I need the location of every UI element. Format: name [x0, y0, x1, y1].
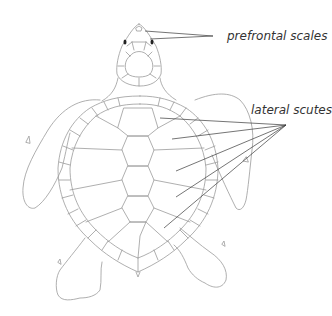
hind-left-flipper-claw	[58, 259, 61, 264]
front-left-flipper	[23, 100, 100, 209]
costal-scutes-left	[70, 116, 130, 242]
head-scales	[118, 42, 160, 86]
supracaudal-notch	[136, 272, 140, 277]
hind-right-flipper-claw	[222, 241, 225, 246]
hind-left-flipper	[56, 238, 102, 300]
vertebral-scutes	[118, 108, 158, 258]
carapace-inner	[70, 104, 206, 258]
nostril-scales	[136, 26, 142, 31]
hind-right-flipper	[174, 228, 226, 287]
costal-scutes-right	[146, 116, 206, 242]
front-right-flipper	[195, 94, 253, 210]
carapace-outer	[58, 96, 218, 272]
label-lateral-scutes: lateral scutes	[251, 103, 332, 117]
left-eye-icon	[124, 40, 127, 45]
prefrontal-pointer-lines	[145, 31, 213, 39]
front-left-flipper-claw	[26, 136, 30, 143]
label-prefrontal-scales: prefrontal scales	[226, 29, 327, 43]
turtle-anatomy-diagram: prefrontal scales lateral scutes	[0, 0, 332, 316]
lateral-pointer-lines	[160, 118, 286, 228]
right-eye-icon	[151, 40, 154, 45]
